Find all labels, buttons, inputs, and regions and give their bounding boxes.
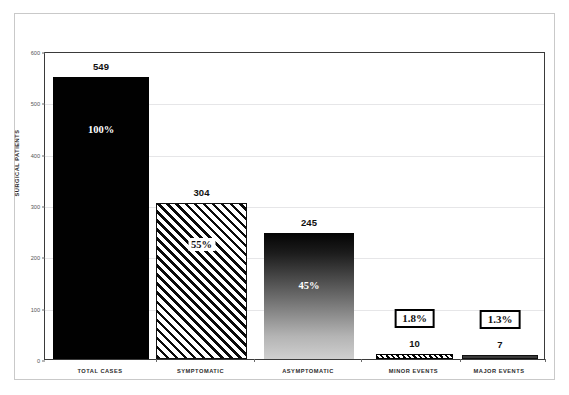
bar-major-events[interactable] <box>462 355 538 360</box>
y-axis-tick-mark <box>42 53 45 54</box>
y-axis-tick-mark <box>42 309 45 310</box>
y-axis-tick-mark <box>42 207 45 208</box>
y-axis-tick-label: 200 <box>31 255 40 261</box>
y-axis-tick-label: 100 <box>31 307 40 313</box>
y-axis-title: SURGICAL PATIENTS <box>14 108 20 218</box>
y-axis-tick-label: 500 <box>31 101 40 107</box>
bar-percent-label: 45% <box>299 280 320 291</box>
bar-symptomatic[interactable] <box>156 203 247 359</box>
y-axis-tick-label: 600 <box>31 50 40 56</box>
y-axis-tick-mark <box>42 104 45 105</box>
bar-value-label: 245 <box>301 217 317 228</box>
x-axis-category-label: ASYMPTOMATIC <box>282 368 334 374</box>
bar-chart-figure: SURGICAL PATIENTS 0100200300400500600549… <box>0 0 569 395</box>
y-axis-tick-mark <box>42 258 45 259</box>
x-axis-category-label: TOTAL CASES <box>77 368 122 374</box>
bar-value-label: 10 <box>409 338 420 349</box>
x-axis-tick-mark <box>361 359 362 362</box>
bar-percent-label: 1.8% <box>394 309 435 328</box>
x-axis-category-label: MINOR EVENTS <box>389 368 438 374</box>
bar-value-label: 7 <box>497 339 502 350</box>
x-axis-tick-mark <box>545 359 546 362</box>
x-axis-tick-mark <box>156 359 157 362</box>
bar-value-label: 304 <box>194 187 210 198</box>
bar-percent-label: 55% <box>188 238 215 251</box>
y-axis-tick-label: 0 <box>37 358 40 364</box>
bar-total-cases[interactable] <box>53 77 149 359</box>
bar-percent-label: 1.3% <box>480 310 521 329</box>
y-axis-tick-mark <box>42 155 45 156</box>
x-axis-tick-mark <box>460 359 461 362</box>
x-axis-category-label: SYMPTOMATIC <box>177 368 224 374</box>
plot-area: 0100200300400500600549100%30455%24545%10… <box>44 52 545 360</box>
bar-minor-events[interactable] <box>376 354 453 359</box>
y-axis-tick-label: 400 <box>31 153 40 159</box>
x-axis-tick-mark <box>254 359 255 362</box>
x-axis-category-label: MAJOR EVENTS <box>474 368 525 374</box>
y-axis-tick-label: 300 <box>31 204 40 210</box>
bar-asymptomatic[interactable] <box>264 233 354 359</box>
bar-value-label: 549 <box>93 61 109 72</box>
bar-percent-label: 100% <box>88 124 114 135</box>
y-axis-tick-mark <box>42 361 45 362</box>
